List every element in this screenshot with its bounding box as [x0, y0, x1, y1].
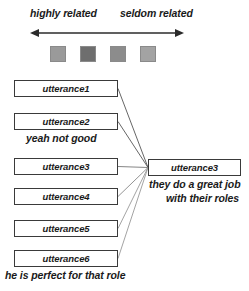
utterance-box-4-label: utterance4: [42, 192, 89, 202]
utterance-box-1-label: utterance1: [42, 84, 89, 94]
link-line-u6: [118, 168, 148, 259]
diagram-canvas: highly related seldom related utterance1…: [0, 0, 249, 291]
target-utterance-caption-line-1: they do a great job: [149, 178, 240, 190]
utterance-box-1[interactable]: utterance1: [14, 80, 118, 97]
utterance-box-2-label: utterance2: [42, 117, 89, 127]
utterance-6-caption: he is perfect for that role: [5, 269, 125, 281]
link-line-u5: [118, 168, 148, 229]
link-lines-group: [0, 0, 249, 291]
utterance-box-2[interactable]: utterance2: [14, 113, 118, 130]
utterance-2-caption: yeah not good: [26, 132, 96, 144]
target-utterance-label: utterance3: [171, 163, 218, 173]
utterance-box-3-label: utterance3: [42, 162, 89, 172]
target-utterance-box[interactable]: utterance3: [148, 159, 241, 176]
utterance-box-5[interactable]: utterance5: [14, 220, 118, 237]
link-line-u3: [118, 167, 148, 168]
utterance-box-6-label: utterance6: [42, 254, 89, 264]
target-utterance-caption-line-2: with their roles: [166, 192, 239, 204]
utterance-box-5-label: utterance5: [42, 224, 89, 234]
utterance-box-4[interactable]: utterance4: [14, 188, 118, 205]
utterance-box-3[interactable]: utterance3: [14, 158, 118, 175]
utterance-box-6[interactable]: utterance6: [14, 250, 118, 267]
